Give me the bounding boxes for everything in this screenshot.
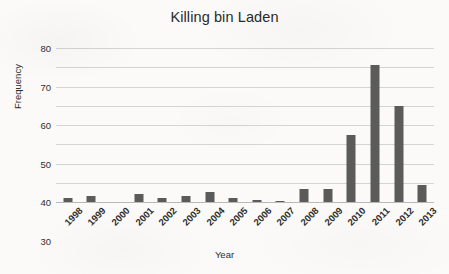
x-tick-label: 2011 bbox=[369, 205, 391, 227]
bar[interactable] bbox=[347, 135, 356, 202]
x-tick-label: 2007 bbox=[274, 205, 297, 228]
bar-slot bbox=[387, 48, 411, 202]
bar[interactable] bbox=[370, 65, 379, 202]
x-tick-label: 2001 bbox=[133, 205, 156, 228]
x-tick-label: 2000 bbox=[109, 205, 132, 228]
bar-slot bbox=[363, 48, 387, 202]
y-tick-label: 30 bbox=[40, 235, 51, 246]
bar-chart: Killing bin Laden Frequency 010203040506… bbox=[0, 0, 449, 274]
bar-slot bbox=[316, 48, 340, 202]
bar[interactable] bbox=[63, 198, 72, 202]
bar-slot bbox=[221, 48, 245, 202]
bar[interactable] bbox=[252, 200, 261, 202]
bar[interactable] bbox=[181, 196, 190, 202]
x-axis-tick-labels: 1998199920002001200220032004200520062007… bbox=[56, 203, 434, 247]
x-tick-label: 2012 bbox=[393, 205, 416, 228]
x-tick-label: 2002 bbox=[156, 205, 179, 228]
plot-area: 01020304050607080 bbox=[56, 48, 434, 202]
bar[interactable] bbox=[158, 198, 167, 202]
bar[interactable] bbox=[394, 106, 403, 202]
bar-slot bbox=[103, 48, 127, 202]
y-tick-label: 40 bbox=[40, 197, 51, 208]
bar[interactable] bbox=[229, 198, 238, 202]
y-axis-title: Frequency bbox=[12, 29, 23, 109]
bar-slot bbox=[56, 48, 80, 202]
x-axis-title: Year bbox=[0, 249, 449, 260]
bar-slot bbox=[292, 48, 316, 202]
x-tick-label: 2009 bbox=[322, 205, 345, 228]
bar[interactable] bbox=[418, 185, 427, 202]
bar-slot bbox=[410, 48, 434, 202]
bar[interactable] bbox=[134, 194, 143, 202]
x-tick-label: 1998 bbox=[62, 205, 85, 228]
bar-slot bbox=[269, 48, 293, 202]
y-tick-label: 70 bbox=[40, 81, 51, 92]
chart-title: Killing bin Laden bbox=[0, 9, 449, 25]
bar-slot bbox=[174, 48, 198, 202]
x-tick-label: 2004 bbox=[204, 205, 227, 228]
bar-slot bbox=[245, 48, 269, 202]
bar-slot bbox=[127, 48, 151, 202]
x-tick-label: 2010 bbox=[345, 205, 368, 228]
bar-slot bbox=[340, 48, 364, 202]
x-tick-label: 2006 bbox=[251, 205, 274, 228]
x-tick-label: 2003 bbox=[180, 205, 203, 228]
x-tick-label: 2005 bbox=[227, 205, 250, 228]
bar-slot bbox=[80, 48, 104, 202]
y-tick-label: 50 bbox=[40, 158, 51, 169]
bar[interactable] bbox=[323, 189, 332, 202]
bar[interactable] bbox=[205, 192, 214, 202]
bar-slot bbox=[198, 48, 222, 202]
bars-layer bbox=[56, 48, 434, 202]
bar[interactable] bbox=[300, 189, 309, 202]
bar[interactable] bbox=[87, 196, 96, 202]
bar[interactable] bbox=[276, 201, 285, 202]
x-tick-label: 1999 bbox=[85, 205, 108, 228]
x-tick-label: 2013 bbox=[416, 205, 439, 228]
bar-slot bbox=[151, 48, 175, 202]
y-tick-label: 80 bbox=[40, 43, 51, 54]
y-tick-label: 60 bbox=[40, 120, 51, 131]
x-tick-label: 2008 bbox=[298, 205, 321, 228]
